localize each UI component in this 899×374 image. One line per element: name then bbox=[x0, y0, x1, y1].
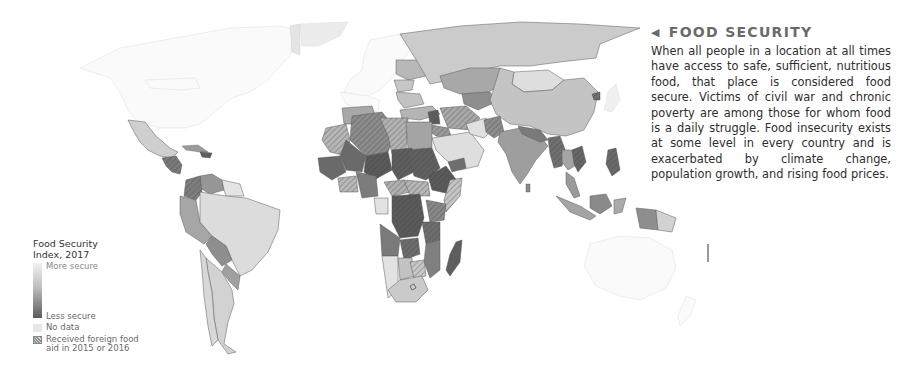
legend-less-secure: Less secure bbox=[46, 311, 96, 321]
legend: Food Security Index, 2017 More secure Le… bbox=[33, 239, 153, 354]
legend-title: Food Security Index, 2017 bbox=[33, 239, 153, 260]
info-body: When all people in a location at all tim… bbox=[651, 44, 891, 183]
legend-title-line2: Index, 2017 bbox=[33, 250, 153, 261]
australia bbox=[584, 236, 676, 300]
no-data-swatch bbox=[33, 324, 42, 332]
legend-gradient-swatch bbox=[33, 263, 42, 318]
japan bbox=[604, 84, 620, 112]
madagascar bbox=[446, 240, 462, 276]
vanuatu bbox=[707, 244, 709, 262]
legend-food-aid: Received foreign food aid in 2015 or 201… bbox=[33, 335, 153, 354]
south-america bbox=[180, 174, 280, 354]
hatch-swatch bbox=[33, 336, 42, 344]
north-america bbox=[80, 24, 300, 128]
left-triangle-icon: ◀ bbox=[651, 26, 661, 39]
food-aid-label: Received foreign food aid in 2015 or 201… bbox=[46, 335, 139, 354]
legend-more-secure: More secure bbox=[46, 261, 98, 271]
cuba bbox=[182, 145, 208, 152]
legend-title-line1: Food Security bbox=[33, 239, 153, 250]
greenland bbox=[300, 22, 348, 46]
new-zealand bbox=[678, 296, 696, 326]
info-title: ◀ FOOD SECURITY bbox=[651, 24, 891, 40]
legend-no-data: No data bbox=[33, 323, 153, 333]
sri-lanka bbox=[526, 184, 530, 192]
no-data-label: No data bbox=[46, 323, 79, 333]
info-panel: ◀ FOOD SECURITY When all people in a loc… bbox=[651, 24, 891, 183]
food-aid-label-line2: aid in 2015 or 2016 bbox=[46, 344, 139, 354]
haiti bbox=[200, 152, 212, 158]
legend-scale: More secure Less secure bbox=[33, 261, 153, 321]
info-title-text: FOOD SECURITY bbox=[669, 24, 813, 40]
